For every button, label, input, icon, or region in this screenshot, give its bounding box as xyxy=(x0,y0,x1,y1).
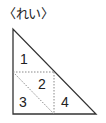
region-label-2: 2 xyxy=(38,76,46,92)
region-label-4: 4 xyxy=(61,94,69,110)
triangle-diagram: 1 2 3 4 xyxy=(0,0,106,123)
region-label-3: 3 xyxy=(19,94,27,110)
region-label-1: 1 xyxy=(20,51,28,67)
